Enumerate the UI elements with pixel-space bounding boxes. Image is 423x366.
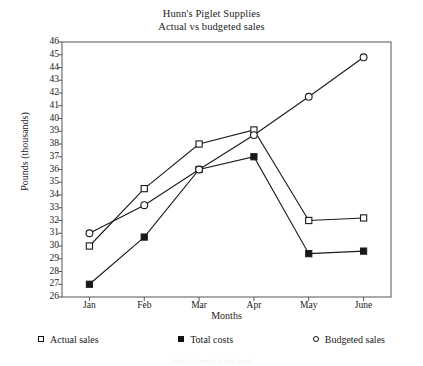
data-point-actual-sales-jan [86,243,92,249]
legend-label-total-costs: Total costs [190,334,233,345]
data-point-budgeted-sales-apr [251,132,258,139]
data-point-total-costs-may [306,251,312,257]
data-point-actual-sales-june [360,215,366,221]
figure-caption: Figure Example of line graph [0,357,423,365]
legend-item-budgeted-sales: Budgeted sales [313,334,385,345]
data-point-total-costs-apr [251,154,257,160]
legend-item-actual-sales: Actual sales [38,334,99,345]
data-point-actual-sales-may [306,217,312,223]
data-point-actual-sales-mar [196,141,202,147]
open-square-icon [38,336,44,342]
data-point-budgeted-sales-jan [86,230,93,237]
data-point-total-costs-jan [86,281,92,287]
data-point-budgeted-sales-may [305,93,312,100]
plot-area [0,0,423,366]
legend-item-total-costs: Total costs [178,334,233,345]
filled-square-icon [178,336,184,342]
data-point-budgeted-sales-feb [141,202,148,209]
chart-legend: Actual sales Total costs Budgeted sales [24,331,399,347]
data-point-total-costs-feb [141,234,147,240]
open-circle-icon [313,336,319,342]
data-point-budgeted-sales-june [360,54,367,61]
legend-label-actual-sales: Actual sales [50,334,99,345]
data-point-budgeted-sales-mar [196,166,203,173]
legend-label-budgeted-sales: Budgeted sales [325,334,385,345]
plot-frame [62,42,391,297]
data-point-actual-sales-feb [141,186,147,192]
data-point-total-costs-june [360,248,366,254]
line-chart-figure: Hunn's Piglet Supplies Actual vs budgete… [0,0,423,366]
